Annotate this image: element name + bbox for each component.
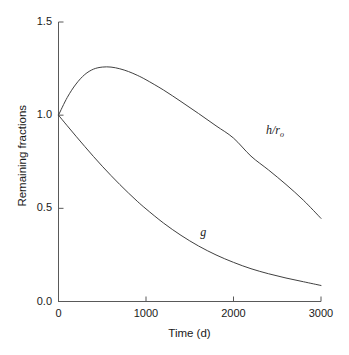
series-label-g-text: g bbox=[200, 225, 206, 239]
x-tick-label: 0 bbox=[29, 308, 89, 319]
data-series-layer bbox=[59, 67, 322, 286]
series-curve-g bbox=[59, 115, 322, 285]
y-tick-label: 1.5 bbox=[14, 16, 52, 27]
axes-frame bbox=[58, 22, 321, 302]
x-axis-title: Time (d) bbox=[58, 328, 321, 340]
series-label-h-over-r0: h/ro bbox=[266, 124, 284, 139]
x-tick-label: 1000 bbox=[116, 308, 176, 319]
x-tick-label: 3000 bbox=[291, 308, 349, 319]
series-label-g: g bbox=[200, 226, 206, 238]
series-curve-h-r0 bbox=[59, 67, 322, 219]
series-label-h-text: h/r bbox=[266, 123, 280, 137]
y-tick-marks bbox=[59, 22, 64, 302]
y-axis-title: Remaining fractions bbox=[17, 71, 29, 241]
series-label-h-subscript: o bbox=[280, 130, 284, 139]
x-tick-marks bbox=[59, 297, 322, 302]
plot-canvas bbox=[0, 0, 349, 355]
chart-figure: 0.00.51.01.5 0100020003000 Remaining fra… bbox=[0, 0, 349, 355]
x-tick-label: 2000 bbox=[204, 308, 264, 319]
y-tick-label: 0.0 bbox=[14, 296, 52, 307]
